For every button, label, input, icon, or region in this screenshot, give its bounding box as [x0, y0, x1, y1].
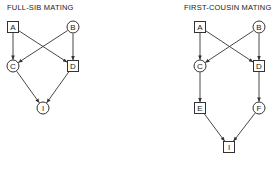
edge-f-to-i [234, 113, 255, 141]
node-i: I [224, 142, 235, 153]
node-a: A [8, 22, 19, 33]
edge-c-to-i [17, 71, 39, 102]
full-sib-diagram: ABCDI [7, 21, 79, 114]
node-label: C [10, 62, 16, 71]
node-a: A [195, 22, 206, 33]
node-c: C [194, 60, 206, 72]
node-label: F [257, 104, 262, 113]
first-cousin-diagram: ABCDEFI [194, 21, 265, 153]
node-label: I [228, 143, 230, 152]
node-label: A [10, 23, 16, 32]
node-f: F [253, 102, 265, 114]
node-label: E [197, 104, 202, 113]
node-label: D [70, 62, 76, 71]
node-i: I [37, 102, 49, 114]
edge-d-to-i [47, 72, 69, 103]
node-label: C [197, 62, 203, 71]
node-label: B [70, 23, 75, 32]
edge-e-to-i [204, 114, 224, 141]
node-label: A [197, 23, 203, 32]
pedigree-diagrams: ABCDI ABCDEFI [0, 0, 275, 169]
node-d: D [254, 61, 265, 72]
node-b: B [253, 21, 265, 33]
node-e: E [195, 103, 206, 114]
node-label: B [256, 23, 261, 32]
node-b: B [67, 21, 79, 33]
node-d: D [68, 61, 79, 72]
node-label: I [42, 104, 44, 113]
node-c: C [7, 60, 19, 72]
node-label: D [256, 62, 262, 71]
